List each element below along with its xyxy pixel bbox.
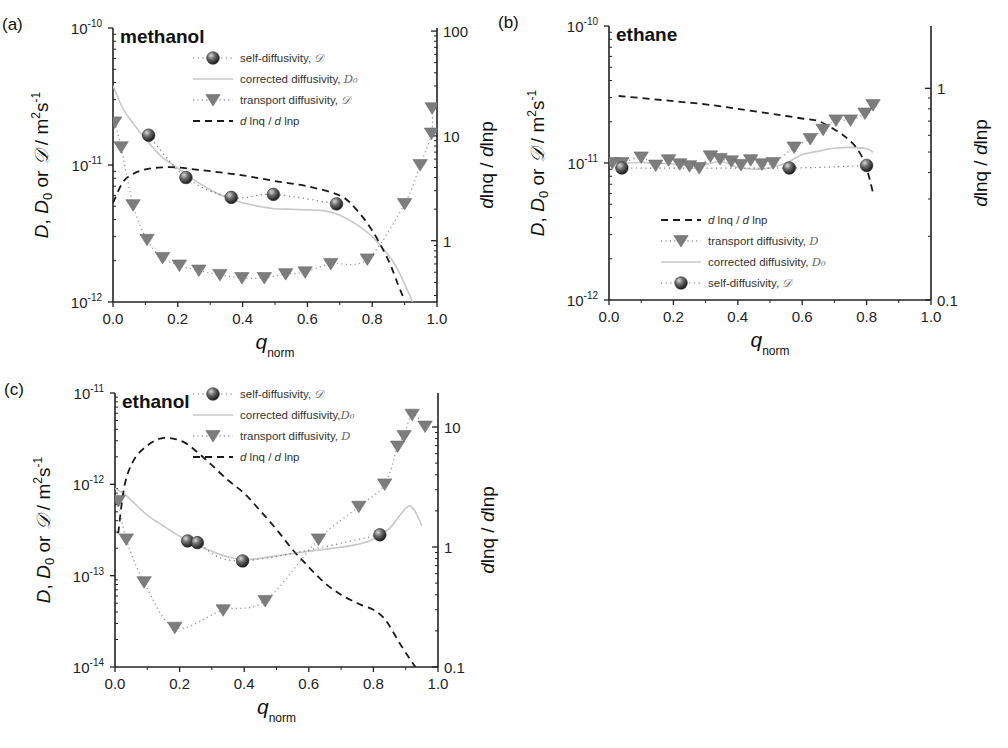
transport-diffusivity-marker — [192, 265, 206, 277]
y-axis-title-left: D, D0 or 𝒟 / m2s-1 — [31, 457, 57, 604]
transport-diffusivity-marker — [206, 431, 220, 443]
panel-title: ethane — [616, 24, 677, 45]
y-tick-label-right: 0.1 — [444, 659, 465, 676]
svg-text:self-diffusivity, 𝒟: self-diffusivity, 𝒟 — [240, 51, 326, 65]
panel-label: (a) — [2, 15, 23, 34]
figure: 0.00.20.40.60.81.010-1010-1110-12100101q… — [0, 0, 1008, 748]
y-tick-label-left: 10-12 — [71, 292, 103, 311]
x-tick-label: 0.4 — [727, 308, 748, 325]
y-tick-label-left: 10-12 — [567, 290, 599, 309]
svg-text:corrected diffusivity,D₀: corrected diffusivity,D₀ — [240, 408, 355, 422]
panel-label: (b) — [498, 13, 519, 32]
transport-diffusivity-marker — [168, 622, 182, 634]
transport-diffusivity-marker — [843, 115, 857, 127]
self-diffusivity-marker — [207, 52, 220, 65]
self-diffusivity-marker — [860, 159, 873, 172]
svg-text:corrected diffusivity, D₀: corrected diffusivity, D₀ — [708, 255, 826, 269]
svg-text:transport diffusivity, D: transport diffusivity, D — [240, 429, 350, 443]
x-tick-label: 0.0 — [103, 310, 124, 327]
y-tick-label-right: 100 — [443, 23, 468, 40]
panel-label: (c) — [4, 380, 24, 399]
transport-diffusivity-marker — [766, 158, 780, 170]
transport-diffusivity-marker — [803, 133, 817, 145]
plot-area — [605, 96, 880, 193]
y-tick-label-right: 1 — [444, 539, 452, 556]
x-tick-label: 0.4 — [232, 310, 253, 327]
legend-entry-transport: transport diffusivity, D — [193, 429, 350, 443]
transport-diffusivity-marker — [648, 160, 662, 172]
x-tick-label: 1.0 — [428, 675, 449, 692]
legend-entry-dlnq: d lnq / d lnp — [193, 115, 300, 127]
transport-diffusivity-marker — [378, 479, 392, 491]
panel-title: methanol — [120, 26, 204, 47]
svg-text:transport diffusivity, 𝒟: transport diffusivity, 𝒟 — [240, 93, 353, 107]
y-tick-label-left: 10-13 — [73, 566, 105, 585]
transport-diffusivity-marker — [397, 199, 411, 211]
self-diffusivity-marker — [236, 555, 249, 568]
axes: 0.00.20.40.60.81.010-1010-1110-12100101q… — [29, 18, 497, 360]
self-diffusivity-marker — [225, 191, 238, 204]
self-diffusivity-marker — [330, 198, 343, 211]
transport-diffusivity-marker — [311, 534, 325, 546]
x-tick-label: 0.6 — [792, 308, 813, 325]
svg-text:transport diffusivity, D: transport diffusivity, D — [708, 234, 818, 248]
legend-entry-transport: transport diffusivity, 𝒟 — [193, 93, 353, 107]
transport-diffusivity-marker — [298, 267, 312, 279]
y-tick-label-left: 10-11 — [74, 383, 105, 402]
panel-title: ethanol — [122, 391, 190, 412]
transport-diffusivity-marker — [172, 260, 186, 272]
y-tick-label-right: 10 — [443, 128, 460, 145]
transport-diffusivity-marker — [114, 142, 128, 154]
series-dlnq — [113, 167, 405, 300]
svg-text:d lnq / d lnp: d lnq / d lnp — [240, 115, 300, 127]
self-diffusivity-marker — [267, 188, 280, 201]
self-diffusivity-marker — [374, 529, 387, 542]
x-tick-label: 0.2 — [663, 308, 684, 325]
transport-diffusivity-marker — [674, 236, 688, 248]
svg-text:d lnq / d lnp: d lnq / d lnp — [708, 214, 768, 226]
legend-entry-corrected: corrected diffusivity, D₀ — [661, 255, 826, 269]
x-axis-title: qnorm — [750, 328, 789, 358]
x-tick-label: 0.6 — [297, 310, 318, 327]
series-dlnq — [118, 438, 415, 667]
y-axis-title-left: D, D0 or 𝒟 / m2s-1 — [29, 92, 55, 239]
legend-entry-self: self-diffusivity, 𝒟 — [193, 51, 326, 65]
legend-entry-dlnq: d lnq / d lnp — [193, 451, 300, 463]
transport-diffusivity-marker — [397, 430, 411, 442]
transport-diffusivity-marker — [829, 115, 843, 127]
y-tick-label-left: 10-11 — [72, 155, 103, 174]
legend: d lnq / d lnptransport diffusivity, Dcor… — [661, 214, 826, 290]
y-axis-title-right: dlnq / dlnp — [477, 486, 498, 574]
transport-diffusivity-marker — [352, 501, 366, 513]
y-tick-label-left: 10-14 — [73, 657, 105, 676]
x-tick-label: 1.0 — [921, 308, 942, 325]
self-diffusivity-marker — [142, 129, 155, 142]
transport-diffusivity-marker — [390, 441, 404, 453]
self-diffusivity-marker — [616, 162, 629, 175]
transport-diffusivity-marker — [413, 160, 427, 172]
y-tick-label-right: 1 — [937, 80, 945, 97]
x-tick-label: 0.4 — [234, 675, 255, 692]
transport-diffusivity-marker — [418, 421, 432, 433]
legend-entry-transport: transport diffusivity, D — [661, 234, 818, 248]
transport-diffusivity-marker — [216, 605, 230, 617]
x-tick-label: 0.2 — [167, 310, 188, 327]
transport-diffusivity-marker — [360, 254, 374, 266]
self-diffusivity-marker — [191, 536, 204, 549]
y-axis-title-left: D, D0 or 𝒟 / m2s-1 — [525, 90, 551, 237]
y-tick-label-left: 10-11 — [568, 153, 599, 172]
series-dlnq — [619, 96, 873, 193]
transport-diffusivity-marker — [107, 117, 121, 129]
transport-diffusivity-marker — [258, 595, 272, 607]
self-diffusivity-marker — [783, 162, 796, 175]
legend-entry-self: self-diffusivity, 𝒟 — [661, 276, 794, 290]
transport-diffusivity-marker — [692, 163, 706, 175]
y-tick-label-right: 0.1 — [937, 292, 958, 309]
svg-text:corrected diffusivity, D₀: corrected diffusivity, D₀ — [240, 72, 358, 86]
legend: self-diffusivity, 𝒟corrected diffusivity… — [193, 51, 358, 127]
x-tick-label: 0.8 — [856, 308, 877, 325]
transport-diffusivity-marker — [126, 200, 140, 212]
transport-diffusivity-marker — [257, 272, 271, 284]
self-diffusivity-marker — [180, 171, 193, 184]
transport-diffusivity-marker — [324, 258, 338, 270]
